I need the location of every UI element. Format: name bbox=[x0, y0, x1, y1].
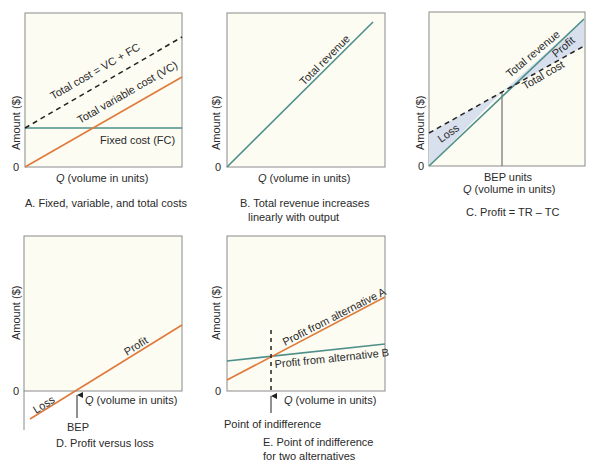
panel-e-caption-2: for two alternatives bbox=[263, 450, 356, 462]
y-axis-label: Amount ($) bbox=[210, 96, 222, 150]
zero-tick: 0 bbox=[13, 161, 19, 173]
x-axis-label: Q (volume in units) bbox=[284, 394, 376, 406]
x-axis-label: Q (volume in units) bbox=[463, 183, 555, 195]
zero-tick: 0 bbox=[215, 161, 221, 173]
panel-b-caption-2: linearly with output bbox=[248, 211, 339, 223]
panel-a: Total cost = VC + FC Total variable cost… bbox=[10, 13, 188, 209]
y-axis-label: Amount ($) bbox=[210, 286, 222, 340]
loss-label: Loss bbox=[31, 393, 57, 416]
panel-c: Total revenue Total cost Profit Loss Amo… bbox=[414, 12, 585, 218]
zero-tick: 0 bbox=[13, 385, 19, 397]
panel-e-caption-1: E. Point of indifference bbox=[263, 436, 373, 448]
indifference-label: Point of indifference bbox=[224, 418, 321, 430]
zero-tick: 0 bbox=[418, 160, 424, 172]
bep-label: BEP bbox=[67, 421, 89, 433]
y-axis-label: Amount ($) bbox=[10, 96, 22, 150]
x-axis-label: Q (volume in units) bbox=[56, 172, 148, 184]
bep-units-label: BEP units bbox=[484, 171, 533, 183]
panel-d: Profit Loss Amount ($) 0 Q (volume in un… bbox=[10, 236, 182, 449]
panel-e: Profit from alternative A Profit from al… bbox=[210, 236, 390, 462]
plot-frame bbox=[24, 236, 182, 391]
x-axis-label: Q (volume in units) bbox=[85, 394, 177, 406]
break-even-figure: Total cost = VC + FC Total variable cost… bbox=[0, 0, 595, 471]
fixed-cost-label: Fixed cost (FC) bbox=[100, 134, 175, 146]
zero-tick: 0 bbox=[215, 385, 221, 397]
y-axis-label: Amount ($) bbox=[10, 286, 22, 340]
panel-d-caption: D. Profit versus loss bbox=[56, 437, 154, 449]
y-axis-label: Amount ($) bbox=[414, 96, 426, 150]
panel-b: Total revenue Amount ($) 0 Q (volume in … bbox=[210, 13, 385, 223]
panel-c-caption: C. Profit = TR – TC bbox=[466, 206, 559, 218]
x-axis-label: Q (volume in units) bbox=[258, 172, 350, 184]
panel-b-caption-1: B. Total revenue increases bbox=[240, 197, 370, 209]
panel-a-caption: A. Fixed, variable, and total costs bbox=[25, 197, 188, 209]
